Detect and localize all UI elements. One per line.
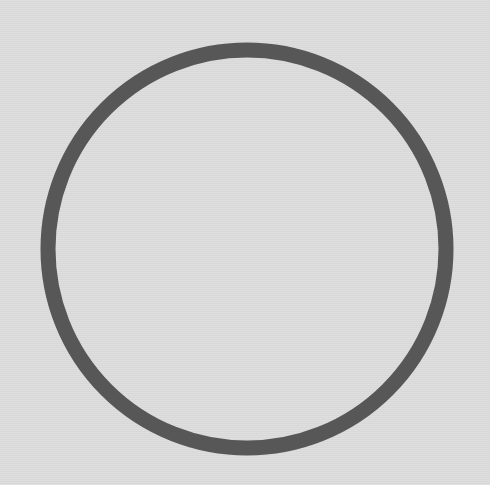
ring-circle [48,50,446,448]
canvas [0,0,490,485]
circle-outline-icon [0,0,490,485]
